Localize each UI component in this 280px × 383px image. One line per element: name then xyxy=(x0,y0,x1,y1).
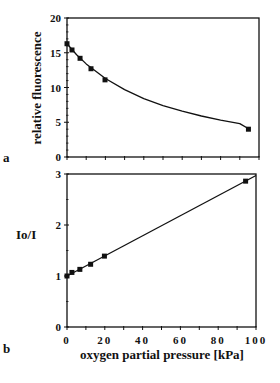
y-tick-label: 10 xyxy=(50,82,62,94)
x-tick-label: 60 xyxy=(173,334,188,346)
y-tick-label: 5 xyxy=(56,116,62,128)
y-tick-label: 2 xyxy=(56,219,62,231)
panel-b-plot: 0123020406080100 xyxy=(56,168,268,346)
y-tick-label: 15 xyxy=(50,47,62,59)
x-axis-title: oxygen partial pressure [kPa] xyxy=(80,347,244,362)
fit-line xyxy=(67,44,249,130)
y-axis-title-a: relative fluorescence xyxy=(29,31,44,144)
y-axis-title-b: Io/I xyxy=(16,227,36,242)
plot-frame xyxy=(67,174,256,327)
x-tick-label: 20 xyxy=(97,334,112,346)
x-tick-label: 0 xyxy=(63,334,71,346)
panel-a-plot: 05101520 xyxy=(50,12,259,163)
panel-label-b: b xyxy=(3,341,10,356)
panel-label-a: a xyxy=(3,150,10,165)
y-tick-label: 1 xyxy=(56,270,62,282)
y-tick-label: 0 xyxy=(56,151,62,163)
y-tick-label: 3 xyxy=(56,168,62,180)
chart-figure: 05101520 0123020406080100 a b relative f… xyxy=(0,0,280,383)
fit-line xyxy=(67,176,256,277)
y-tick-label: 20 xyxy=(50,12,62,24)
plot-frame xyxy=(67,18,259,157)
x-tick-label: 40 xyxy=(135,334,150,346)
x-tick-label: 80 xyxy=(211,334,226,346)
y-tick-label: 0 xyxy=(56,321,62,333)
x-tick-label: 100 xyxy=(245,334,268,346)
